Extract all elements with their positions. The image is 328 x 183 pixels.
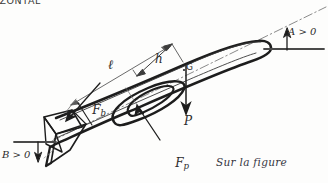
force-b-subscript: b (101, 109, 107, 119)
force-b-symbol: F (92, 103, 100, 117)
force-b-label: Fb (77, 89, 106, 133)
weight-force-label: P (184, 114, 192, 128)
missile-force-diagram: IZONTAL ℓ h G P Fb Fp A > 0 B > 0 Sur la… (0, 0, 328, 183)
center-of-gravity-label: G (186, 62, 193, 73)
horizontal-reference-caption: IZONTAL (0, 0, 41, 6)
force-p-symbol: F (175, 156, 183, 170)
force-p-subscript: p (184, 162, 190, 172)
length-label-ell: ℓ (108, 57, 113, 72)
center-of-gravity-marker (183, 69, 185, 71)
figure-note: Sur la figure A et B sont positifs (216, 131, 287, 183)
figure-note-line-1: Sur la figure (216, 156, 287, 168)
length-label-h: h (155, 52, 163, 66)
force-p-label: Fp (160, 142, 189, 183)
angle-B-label: B > 0 (2, 149, 30, 161)
angle-A-label: A > 0 (288, 26, 316, 38)
